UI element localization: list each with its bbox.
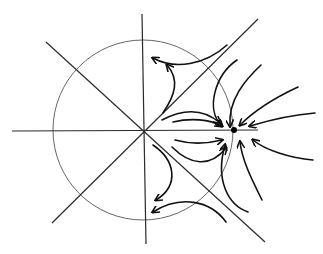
flow-mid-lower-arrow bbox=[172, 147, 226, 162]
flow-lower-descending-arrow bbox=[153, 145, 172, 200]
flow-right-lower-in-arrow bbox=[253, 140, 313, 160]
flow-near-axis-above-arrow bbox=[173, 120, 221, 126]
phase-portrait-diagram bbox=[0, 0, 323, 254]
flow-bottom-left-out-arrow bbox=[153, 202, 226, 222]
flow-near-axis-below-arrow bbox=[175, 140, 222, 143]
flow-lower-right-in-arrow bbox=[240, 142, 262, 200]
axes-group bbox=[12, 14, 265, 244]
flow-upper-rising-arrow bbox=[163, 65, 175, 113]
flow-upper-band-2-arrow bbox=[230, 65, 261, 126]
flow-right-in-arrow bbox=[250, 113, 315, 126]
fixed-point-dot bbox=[231, 127, 237, 133]
flow-lines-group bbox=[153, 45, 315, 222]
vertical-axis bbox=[142, 14, 146, 244]
horizontal-axis bbox=[12, 130, 258, 131]
flow-lower-band-arrow bbox=[222, 145, 248, 212]
flow-upper-right-in-arrow bbox=[240, 87, 298, 125]
